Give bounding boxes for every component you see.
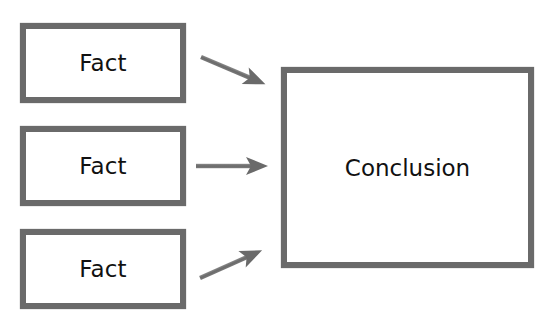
- fact-box-3: Fact: [20, 229, 186, 309]
- fact-label-3: Fact: [79, 256, 127, 282]
- fact-label-2: Fact: [79, 153, 127, 179]
- conclusion-box: Conclusion: [281, 67, 534, 268]
- fact-box-2: Fact: [20, 126, 186, 206]
- arrow-icon-3: [196, 242, 265, 286]
- arrow-icon-1: [197, 49, 268, 93]
- fact-label-1: Fact: [79, 50, 127, 76]
- arrow-icon-2: [196, 157, 268, 175]
- conclusion-label: Conclusion: [345, 155, 470, 181]
- fact-box-1: Fact: [20, 23, 186, 103]
